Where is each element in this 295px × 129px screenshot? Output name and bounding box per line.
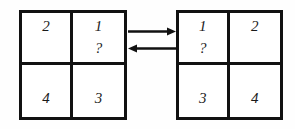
cell-numeral: 3 [95,91,103,107]
arrow-pair [127,20,177,62]
left-grid-cell-bottom-left: 4 [22,65,73,117]
right-grid: 1 ? 2 3 4 [176,10,283,120]
right-grid-cell-top-left: 1 ? [179,13,230,65]
cell-numeral: 4 [42,91,50,107]
left-grid-cell-top-left: 2 [22,13,73,65]
arrow-left-icon [128,45,176,53]
right-grid-cell-bottom-right: 4 [230,65,281,117]
left-grid-cell-top-right: 1 ? [73,13,124,65]
diagram-canvas: 2 1 ? 4 3 [0,0,295,129]
left-grid: 2 1 ? 4 3 [19,10,127,120]
cell-numeral: 1 [199,19,207,35]
right-grid-cell-top-right: 2 [230,13,281,65]
cell-numeral: 3 [199,91,207,107]
arrow-right-icon [128,28,176,36]
right-grid-cell-bottom-left: 3 [179,65,230,117]
cell-numeral: 2 [251,19,259,35]
left-grid-cell-bottom-right: 3 [73,65,124,117]
cell-numeral: 2 [42,19,50,35]
cell-question-mark: ? [199,38,207,58]
cell-numeral: 4 [251,91,259,107]
cell-question-mark: ? [95,38,103,58]
cell-numeral: 1 [95,19,103,35]
bidirectional-arrows-svg [127,20,177,62]
